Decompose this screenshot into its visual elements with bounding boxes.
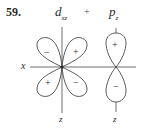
plus-operator: + bbox=[84, 6, 90, 17]
sign-upper-right: + bbox=[73, 46, 79, 57]
pz-sign-upper: + bbox=[112, 39, 118, 50]
pz-subscript: z bbox=[116, 14, 119, 22]
sign-lower-left: + bbox=[45, 77, 51, 88]
dxz-title: dxz bbox=[55, 4, 67, 22]
z-axis-label-left: z bbox=[59, 114, 63, 124]
sign-lower-right: − bbox=[73, 77, 79, 88]
dxz-nucleus bbox=[60, 65, 63, 68]
dxz-subscript: xz bbox=[62, 14, 68, 22]
pz-title: pz bbox=[109, 4, 118, 22]
sign-upper-left: − bbox=[44, 47, 50, 58]
pz-sign-lower: − bbox=[113, 81, 119, 92]
z-axis-label-right: z bbox=[113, 114, 117, 124]
x-axis-label: x bbox=[21, 60, 25, 71]
